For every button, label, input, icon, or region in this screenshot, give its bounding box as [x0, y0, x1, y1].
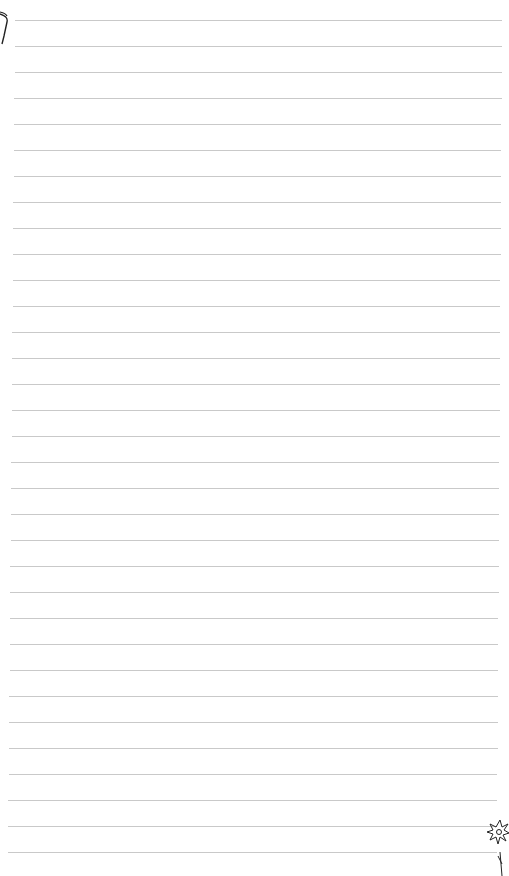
ruled-line: [9, 696, 498, 697]
ruled-line: [13, 254, 501, 255]
ruled-line: [12, 384, 500, 385]
ruled-line: [13, 228, 501, 229]
ruled-line: [14, 98, 501, 99]
ruled-line: [13, 280, 501, 281]
ruled-line: [11, 540, 499, 541]
ruled-line: [12, 410, 500, 411]
corner-doodle-icon: [0, 0, 20, 46]
ruled-line: [8, 852, 497, 853]
ruled-line: [12, 332, 500, 333]
ruled-line: [14, 150, 501, 151]
ruled-line: [13, 306, 501, 307]
ruled-line: [9, 722, 498, 723]
ruled-line: [11, 462, 499, 463]
ruled-line: [8, 800, 497, 801]
ruled-line: [9, 748, 498, 749]
ruled-line: [10, 644, 499, 645]
ruled-line: [12, 358, 500, 359]
ruled-line: [8, 826, 497, 827]
ruled-line: [9, 774, 498, 775]
ruled-line: [15, 72, 502, 73]
ruled-line: [11, 514, 499, 515]
ruled-line: [12, 436, 500, 437]
ruled-line: [10, 670, 499, 671]
ruled-line: [14, 124, 501, 125]
ruled-line: [10, 618, 498, 619]
ruled-line: [15, 46, 502, 47]
ruled-line: [11, 488, 499, 489]
ruled-line: [13, 202, 500, 203]
lined-paper: [0, 0, 509, 876]
ruled-line: [15, 20, 502, 21]
ruled-line: [10, 566, 498, 567]
ruled-line: [14, 176, 501, 177]
flower-icon: [486, 818, 509, 876]
ruled-line: [10, 592, 498, 593]
